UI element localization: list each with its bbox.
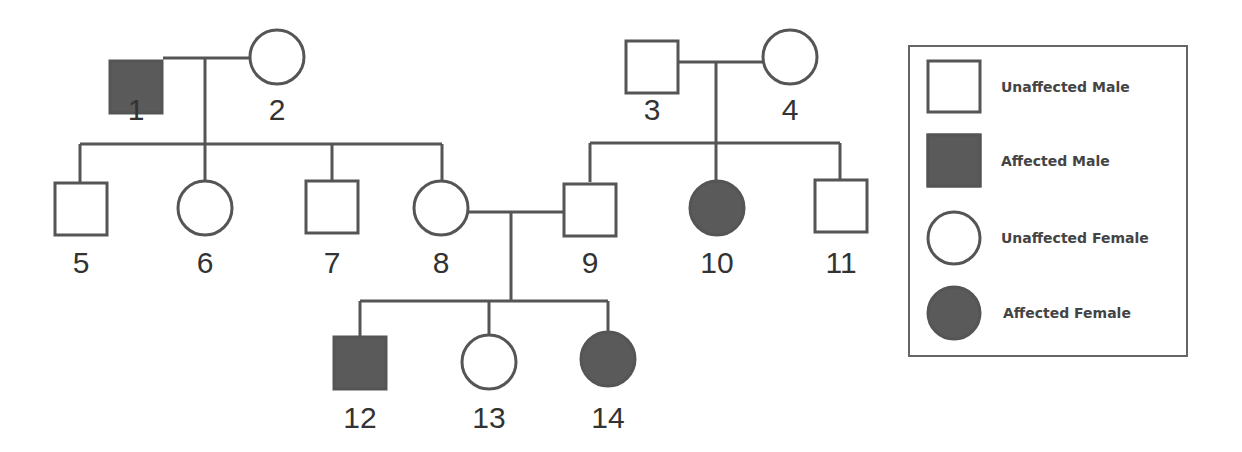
pedigree-chart: 1234567891011121314 Unaffected Male Affe… bbox=[0, 0, 1242, 452]
individual-label-2: 2 bbox=[269, 93, 286, 126]
individual-label-1: 1 bbox=[128, 93, 145, 126]
individual-5-unaffected-male-icon bbox=[55, 183, 107, 235]
legend-label-affected-male: Affected Male bbox=[1001, 153, 1110, 169]
individual-label-12: 12 bbox=[343, 401, 376, 434]
individual-10-affected-female-icon bbox=[690, 181, 744, 235]
individual-6-unaffected-female-icon bbox=[178, 181, 232, 235]
legend-unaffected-male-icon bbox=[928, 61, 980, 112]
individual-label-6: 6 bbox=[197, 246, 214, 279]
individual-13-unaffected-female-icon bbox=[462, 335, 516, 389]
individual-14-affected-female-icon bbox=[581, 332, 635, 386]
individual-label-8: 8 bbox=[433, 246, 450, 279]
individual-12-affected-male-icon bbox=[334, 337, 386, 389]
individual-label-11: 11 bbox=[825, 246, 856, 279]
legend-affected-female-icon bbox=[928, 287, 980, 339]
individual-label-9: 9 bbox=[582, 246, 599, 279]
individual-label-10: 10 bbox=[700, 246, 733, 279]
individual-7-unaffected-male-icon bbox=[306, 181, 358, 233]
legend-affected-male-icon bbox=[928, 135, 980, 186]
individual-11-unaffected-male-icon bbox=[815, 180, 867, 232]
individual-label-13: 13 bbox=[472, 401, 505, 434]
individual-8-unaffected-female-icon bbox=[414, 181, 468, 235]
individual-label-3: 3 bbox=[644, 93, 661, 126]
individual-label-14: 14 bbox=[591, 401, 624, 434]
legend-label-unaffected-female: Unaffected Female bbox=[1001, 230, 1149, 246]
individual-9-unaffected-male-icon bbox=[564, 184, 616, 236]
individual-label-4: 4 bbox=[782, 93, 799, 126]
legend-label-affected-female: Affected Female bbox=[1003, 305, 1131, 321]
individual-4-unaffected-female-icon bbox=[763, 30, 817, 84]
legend-unaffected-female-icon bbox=[928, 212, 980, 264]
individual-label-5: 5 bbox=[73, 246, 90, 279]
legend-label-unaffected-male: Unaffected Male bbox=[1001, 79, 1130, 95]
pedigree-individuals bbox=[55, 30, 867, 389]
individual-2-unaffected-female-icon bbox=[250, 30, 304, 84]
legend: Unaffected Male Affected Male Unaffected… bbox=[909, 46, 1187, 356]
individual-3-unaffected-male-icon bbox=[626, 41, 678, 93]
individual-label-7: 7 bbox=[324, 246, 341, 279]
